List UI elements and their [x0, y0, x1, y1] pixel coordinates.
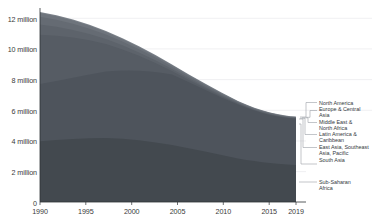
x-tick-label: 2010 [209, 207, 237, 216]
legend-item-middle-east-north-africa[interactable]: Middle East & North Africa [319, 119, 352, 131]
legend-item-latin-america-caribbean[interactable]: Latin America & Caribbean [319, 131, 357, 143]
x-tick-label: 1995 [72, 207, 100, 216]
legend-item-europe-central-asia[interactable]: Europe & Central Asia [319, 106, 360, 118]
y-tick-label: 10 million [0, 45, 37, 54]
y-tick-label: 2 million [0, 168, 37, 177]
area-bands [40, 12, 296, 202]
legend-item-south-asia[interactable]: South Asia [319, 157, 345, 163]
y-tick-label: 12 million [0, 15, 37, 24]
x-tick-label: 2005 [164, 207, 192, 216]
x-tick-label: 2000 [118, 207, 146, 216]
y-tick-label: 4 million [0, 137, 37, 146]
legend-leader-lines [299, 103, 317, 183]
x-tick-label: 2015 [255, 207, 283, 216]
x-tick-label: 2019 [282, 207, 310, 216]
stacked-area-chart: 12 million 10 million 8 million 6 millio… [0, 0, 383, 224]
x-tick-marks [40, 202, 296, 205]
x-tick-label: 1990 [26, 207, 54, 216]
legend-item-sub-saharan-africa[interactable]: Sub-Saharan Africa [319, 179, 351, 191]
legend-item-east-asia-southeast-asia-pacific[interactable]: East Asia, Southeast Asia, Pacific [319, 144, 369, 156]
y-tick-label: 6 million [0, 107, 37, 116]
y-tick-label: 8 million [0, 76, 37, 85]
legend-item-north-america[interactable]: North America [319, 100, 353, 106]
